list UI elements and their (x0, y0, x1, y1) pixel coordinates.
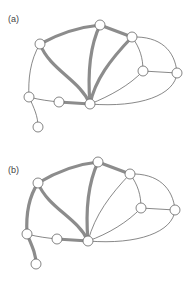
graph-node (52, 234, 62, 244)
graph-node (127, 32, 137, 42)
panel-a (24, 20, 182, 132)
graph-node (93, 157, 103, 167)
graph-node (33, 122, 43, 132)
thin-edge (130, 174, 175, 210)
graph-node (33, 178, 43, 188)
thin-edge (88, 174, 130, 241)
highlighted-edge (38, 162, 98, 183)
highlighted-edge (90, 37, 132, 104)
panel-a-label: (a) (8, 14, 19, 24)
panel-b-label: (b) (8, 165, 19, 175)
graph-node (24, 92, 34, 102)
thin-edge (88, 210, 175, 242)
graph-node (170, 205, 180, 215)
thin-edge (90, 71, 143, 104)
highlighted-edge (40, 44, 90, 104)
highlighted-edge (87, 162, 98, 241)
graph-node (138, 66, 148, 76)
thin-edge (29, 44, 40, 97)
graph-node (22, 229, 32, 239)
graph-node (136, 203, 146, 213)
graph-node (35, 39, 45, 49)
graph-node (83, 236, 93, 246)
graph-node (31, 259, 41, 269)
graph-diagram (0, 0, 192, 284)
highlighted-edge (27, 183, 38, 234)
graph-node (125, 169, 135, 179)
thin-edge (132, 37, 177, 73)
graph-node (85, 99, 95, 109)
graph-node (172, 68, 182, 78)
panel-b (22, 157, 180, 269)
graph-node (95, 20, 105, 30)
thin-edge (90, 73, 177, 105)
graph-node (54, 97, 64, 107)
highlighted-edge (38, 183, 88, 241)
thin-edge (88, 208, 141, 241)
highlighted-edge (40, 25, 100, 44)
